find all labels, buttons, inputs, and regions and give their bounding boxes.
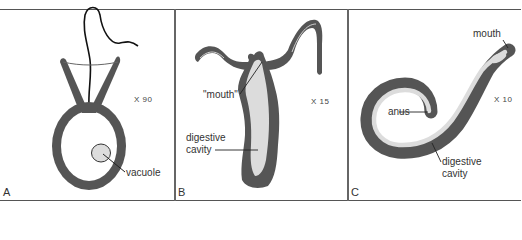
digestive-cavity-label-2: cavity <box>442 168 468 179</box>
anus-label: anus <box>388 106 410 117</box>
panel-letter: C <box>351 186 359 198</box>
magnification-label: X 10 <box>494 95 512 104</box>
digestive-cavity-label: digestive <box>442 156 481 167</box>
mouth-label: mouth <box>473 28 501 39</box>
